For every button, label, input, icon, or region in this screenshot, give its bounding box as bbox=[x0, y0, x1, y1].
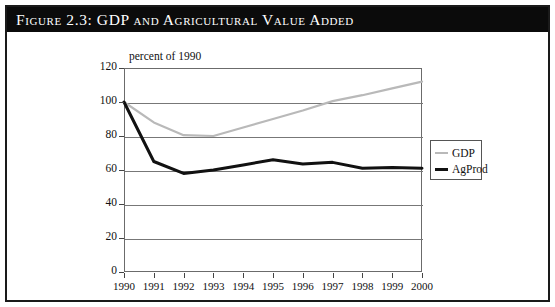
x-axis-tick-mark bbox=[273, 273, 274, 278]
y-axis-tick-mark bbox=[119, 170, 124, 171]
x-axis-tick-mark bbox=[124, 273, 125, 278]
y-axis-tick-mark bbox=[119, 68, 124, 69]
series-layer bbox=[124, 68, 422, 272]
y-axis-tick-label: 0 bbox=[91, 264, 117, 276]
y-axis-tick-mark bbox=[119, 204, 124, 205]
y-axis-unit-label: percent of 1990 bbox=[129, 50, 201, 62]
legend-label-agprod: AgProd bbox=[452, 163, 488, 175]
chart-legend: GDP AgProd bbox=[430, 140, 482, 180]
legend-swatch-agprod-icon bbox=[435, 168, 448, 171]
y-axis-tick-label: 100 bbox=[91, 94, 117, 106]
x-axis-tick-mark bbox=[154, 273, 155, 278]
x-axis-tick-mark bbox=[422, 273, 423, 278]
y-axis-tick-mark bbox=[119, 102, 124, 103]
x-axis-tick-mark bbox=[243, 273, 244, 278]
x-axis-tick-mark bbox=[392, 273, 393, 278]
series-line-gdp bbox=[124, 82, 422, 136]
legend-item-agprod[interactable]: AgProd bbox=[435, 161, 477, 177]
figure-title-bar: Figure 2.3: GDP and Agricultural Value A… bbox=[7, 7, 548, 32]
y-axis-tick-mark bbox=[119, 136, 124, 137]
x-axis-tick-mark bbox=[362, 273, 363, 278]
x-axis-tick-mark bbox=[213, 273, 214, 278]
series-line-agprod bbox=[124, 102, 422, 173]
y-axis-tick-label: 20 bbox=[91, 230, 117, 242]
legend-swatch-gdp-icon bbox=[435, 152, 448, 154]
y-axis-tick-mark bbox=[119, 238, 124, 239]
y-axis-tick-label: 60 bbox=[91, 162, 117, 174]
x-axis-tick-label: 2000 bbox=[402, 280, 442, 292]
legend-item-gdp[interactable]: GDP bbox=[435, 145, 477, 161]
x-axis-tick-mark bbox=[303, 273, 304, 278]
y-axis-tick-label: 80 bbox=[91, 128, 117, 140]
x-axis-tick-mark bbox=[333, 273, 334, 278]
page-title: Figure 2.3: GDP and Agricultural Value A… bbox=[7, 11, 354, 29]
figure-container: Figure 2.3: GDP and Agricultural Value A… bbox=[0, 0, 555, 307]
y-axis-tick-label: 120 bbox=[91, 60, 117, 72]
legend-label-gdp: GDP bbox=[452, 147, 475, 159]
y-axis-tick-label: 40 bbox=[91, 196, 117, 208]
x-axis-tick-mark bbox=[184, 273, 185, 278]
